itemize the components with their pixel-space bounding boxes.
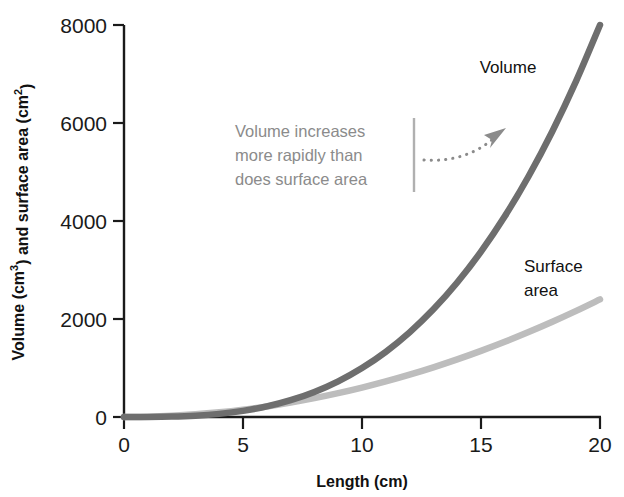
annotation-line-2: more rapidly than <box>235 146 362 164</box>
y-tick-label-0: 0 <box>95 406 107 429</box>
chart-figure: 8000 6000 4000 2000 0 0 5 10 15 20 Lengt… <box>0 0 624 497</box>
surface-area-series-label-line1: Surface <box>524 257 583 276</box>
x-tick-label-20: 20 <box>588 433 611 456</box>
surface-area-series-label: Surface area <box>524 257 583 300</box>
y-tick-label-6000: 6000 <box>60 112 107 135</box>
y-tick-marks <box>113 25 124 417</box>
x-axis-title: Length (cm) <box>316 473 408 490</box>
x-tick-label-10: 10 <box>350 433 373 456</box>
x-tick-label-0: 0 <box>118 433 130 456</box>
x-tick-label-15: 15 <box>469 433 492 456</box>
y-tick-labels: 8000 6000 4000 2000 0 <box>60 14 107 429</box>
y-axis-title-tail: ) <box>18 84 35 89</box>
volume-vs-surface-annotation: Volume increases more rapidly than does … <box>235 118 506 192</box>
volume-curve <box>124 25 600 417</box>
annotation-line-3: does surface area <box>235 170 368 188</box>
surface-area-curve <box>124 299 600 417</box>
y-axis-title-lead: Volume (cm <box>10 271 27 361</box>
surface-area-series-label-line2: area <box>524 281 559 300</box>
axes-group <box>124 25 601 417</box>
annotation-dotted-arrow-line <box>424 138 494 160</box>
y-tick-label-4000: 4000 <box>60 210 107 233</box>
y-tick-label-8000: 8000 <box>60 14 107 37</box>
y-tick-label-2000: 2000 <box>60 308 107 331</box>
y-axis-title-mid: ) and surface area (cm <box>14 95 31 265</box>
annotation-arrowhead-icon <box>484 128 506 148</box>
annotation-line-1: Volume increases <box>235 122 365 140</box>
y-axis-title: Volume (cm3) and surface area (cm2) <box>8 84 35 361</box>
volume-series-label: Volume <box>480 58 537 77</box>
chart-canvas: 8000 6000 4000 2000 0 0 5 10 15 20 Lengt… <box>0 0 624 497</box>
x-tick-label-5: 5 <box>237 433 249 456</box>
x-tick-labels: 0 5 10 15 20 <box>118 433 612 456</box>
